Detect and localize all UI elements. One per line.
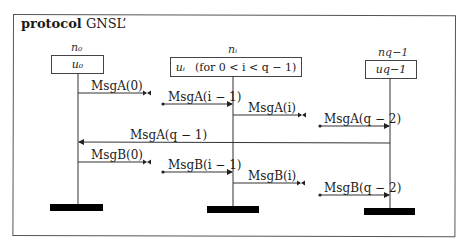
lost-end-msgb-i (297, 181, 305, 186)
label-msga-0: MsgA(0) (91, 80, 143, 92)
label-msgb-i: MsgB(i) (248, 170, 296, 182)
lost-end-msga-i (298, 113, 306, 118)
found-start-msga-i-1 (161, 102, 164, 105)
arrow-msga-q-1 (79, 142, 390, 143)
termination-bar-ni (207, 206, 259, 213)
label-msgb-q-2: MsgB(q − 2) (324, 182, 401, 194)
found-start-msga-q-2 (318, 124, 321, 127)
found-start-msgb-q-2 (318, 193, 321, 196)
termination-bar-nq-1 (364, 208, 415, 215)
lost-end-msga-0 (143, 91, 151, 96)
label-msga-i: MsgA(i) (248, 102, 296, 114)
label-msga-q-2: MsgA(q − 2) (324, 113, 401, 125)
label-msgb-i-1: MsgB(i − 1) (168, 159, 241, 171)
label-msga-i-1: MsgA(i − 1) (168, 91, 241, 103)
termination-bar-n0 (50, 204, 103, 211)
lost-end-msgb-0 (143, 160, 151, 165)
found-start-msgb-i-1 (161, 170, 164, 173)
label-msgb-0: MsgB(0) (91, 149, 143, 161)
label-msga-q-1: MsgA(q − 1) (130, 129, 207, 141)
